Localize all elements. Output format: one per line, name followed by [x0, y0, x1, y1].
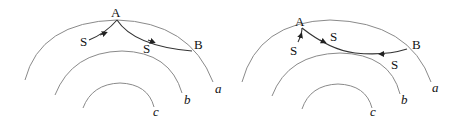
s-label: S — [290, 43, 297, 58]
s-label: S — [330, 29, 337, 44]
arc-c-label: c — [370, 104, 376, 119]
point-b-label: B — [194, 37, 203, 52]
point-a-label: A — [111, 5, 121, 20]
arc-b — [55, 51, 182, 95]
left-diagram: A B S S a b c — [25, 5, 222, 119]
path-s-to-a — [89, 20, 117, 40]
s-label: S — [391, 57, 398, 72]
arc-a-label: a — [432, 80, 439, 95]
arc-c-label: c — [153, 104, 159, 119]
path-a-to-b — [117, 20, 192, 51]
arc-c — [83, 83, 154, 108]
arc-c — [302, 84, 372, 109]
s-label: S — [80, 34, 87, 49]
s-label: S — [143, 41, 150, 56]
arc-a-label: a — [215, 81, 222, 96]
arc-b-label: b — [401, 92, 408, 107]
arc-b-label: b — [184, 92, 191, 107]
path-a-to-b — [302, 28, 407, 54]
point-a-label: A — [295, 14, 305, 29]
point-b-label: B — [412, 37, 421, 52]
path-s-to-a — [298, 28, 302, 42]
arc-b — [272, 53, 400, 96]
right-diagram: A B S S S a b c — [242, 14, 439, 119]
diagram-canvas: A B S S a b c A B S S S a b c — [0, 0, 460, 124]
